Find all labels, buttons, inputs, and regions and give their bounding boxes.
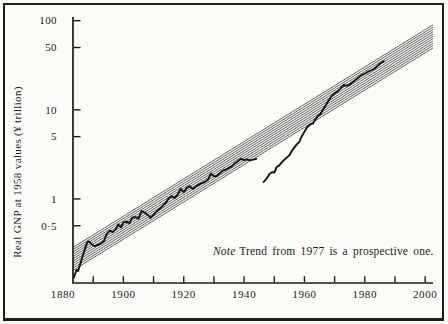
y-axis-title-text: Real GNP at 1958 values (¥ trillion) [11,86,23,258]
y-axis: 1005010510·5 [39,14,80,231]
y-tick-label: 0·5 [41,220,57,232]
y-tick-label: 1 [51,193,57,205]
trend-band-line [73,36,433,259]
trend-band-line [73,46,433,268]
x-tick-label: 1880 [51,288,75,300]
y-tick-label: 5 [51,130,57,142]
note-lead-word: Note [213,245,236,257]
note-text: Trend from 1977 is a prospective one. [239,245,433,257]
y-axis-title: Real GNP at 1958 values (¥ trillion) [11,86,23,258]
y-tick-label: 10 [45,104,57,116]
trend-band-line [73,41,433,264]
trend-band-line [73,27,433,250]
x-tick-label: 1960 [292,288,316,300]
x-tick-label: 1900 [111,288,135,300]
y-tick-label: 100 [39,14,57,26]
y-tick-label: 50 [45,41,57,53]
figure-page: 1005010510·51880190019201940196019802000… [0,0,448,324]
series-postwar-actual-gnp [264,61,384,182]
gnp-trend-chart: 1005010510·51880190019201940196019802000 [0,0,448,324]
x-tick-label: 1920 [171,288,195,300]
trend-band-line [73,25,433,248]
trend-band-line [73,39,433,262]
chart-note: NoteTrend from 1977 is a prospective one… [213,245,434,257]
x-tick-label: 2000 [413,288,437,300]
trend-band [73,25,433,271]
trend-band-line [73,29,433,252]
trend-band-line [73,34,433,257]
trend-band-line [73,43,433,265]
series-prewar-actual-gnp [74,159,257,278]
x-axis: 1880190019201940196019802000 [51,276,438,300]
x-tick-label: 1940 [232,288,256,300]
x-tick-label: 1980 [353,288,377,300]
